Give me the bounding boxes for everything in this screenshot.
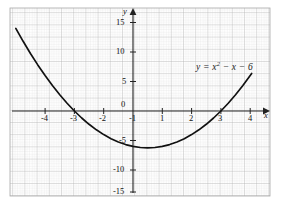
equation-exponent: 2 — [217, 60, 220, 67]
y-tick-label--5: -5 — [119, 135, 126, 145]
x-tick-label--2: -2 — [99, 113, 106, 123]
parabola-plot — [0, 0, 282, 217]
figure-container: y = x2 − x − 6 y x -4 -3 -2 -1 0 1 2 3 4… — [0, 0, 282, 217]
graph-paper-background — [10, 8, 270, 196]
equation-equals: = — [203, 62, 210, 72]
x-tick-label-3: 3 — [218, 113, 222, 123]
y-tick-label-15: 15 — [116, 17, 125, 27]
x-tick-label-2: 2 — [189, 113, 193, 123]
x-tick-label--1: -1 — [129, 113, 136, 123]
y-tick-label--10: -10 — [113, 164, 124, 174]
x-tick-label-4: 4 — [248, 113, 252, 123]
x-tick-label--3: -3 — [70, 113, 77, 123]
y-tick-label--15: -15 — [113, 186, 124, 196]
equation-remainder: − x − 6 — [223, 62, 253, 72]
y-axis-label: y — [123, 6, 127, 16]
x-tick-label--4: -4 — [41, 113, 48, 123]
x-axis-label: x — [264, 110, 268, 120]
equation-annotation: y = x2 − x − 6 — [196, 60, 253, 72]
equation-lhs: y — [196, 62, 200, 72]
x-tick-label-1: 1 — [160, 113, 164, 123]
y-tick-label-5: 5 — [122, 76, 126, 86]
origin-label: 0 — [121, 99, 125, 109]
y-tick-label-10: 10 — [116, 46, 125, 56]
